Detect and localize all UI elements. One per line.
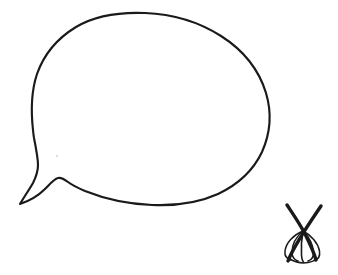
paper-speck (56, 155, 58, 157)
sketch-illustration (0, 0, 338, 275)
paper-background (0, 0, 338, 275)
sketch-canvas (0, 0, 338, 275)
